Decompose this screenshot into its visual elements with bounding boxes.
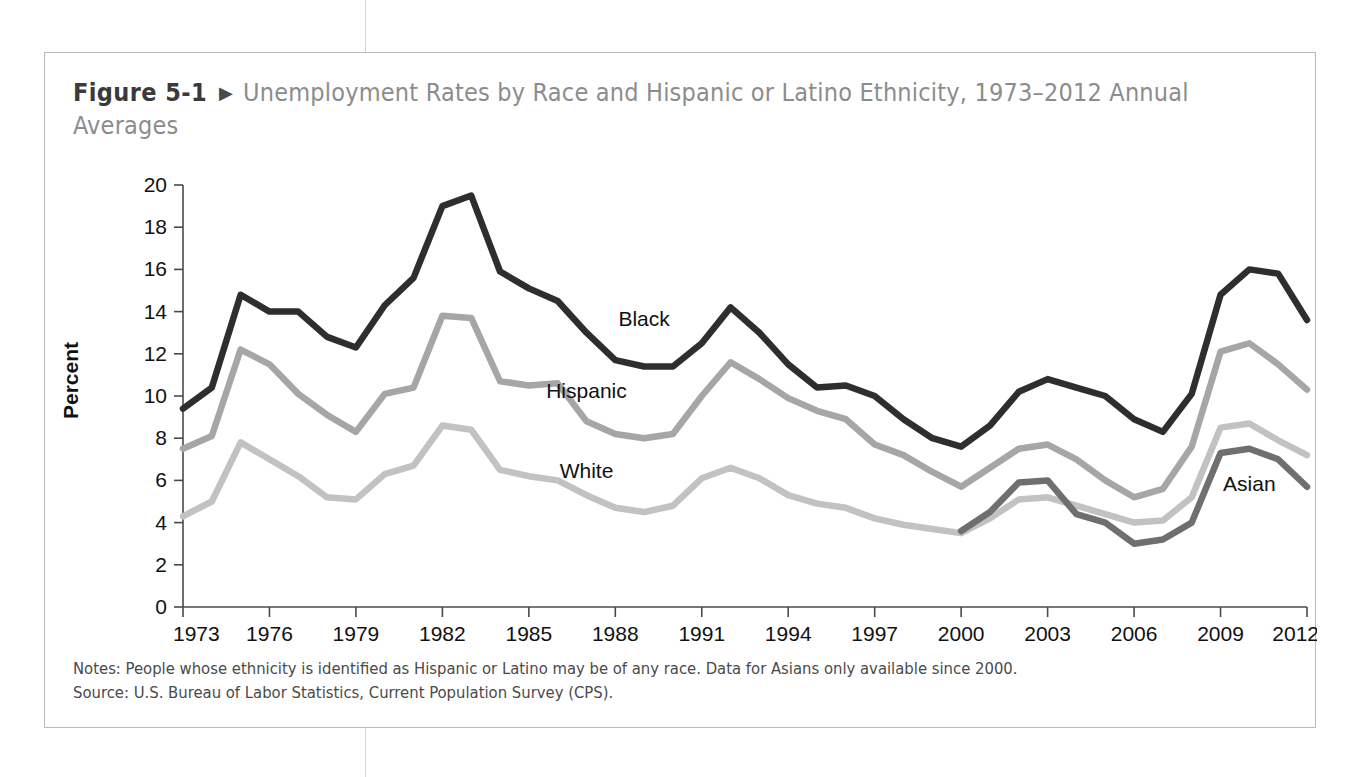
x-axis-tick-label: 1997 <box>851 622 898 645</box>
x-axis-tick-label: 1976 <box>246 622 293 645</box>
figure-number: Figure 5-1 <box>73 78 207 107</box>
x-axis-tick-label: 1982 <box>419 622 466 645</box>
y-axis-tick-label: 4 <box>155 511 167 534</box>
figure-source: Source: U.S. Bureau of Labor Statistics,… <box>73 681 1295 705</box>
figure-notes: Notes: People whose ethnicity is identif… <box>73 657 1295 681</box>
y-axis-tick-label: 18 <box>144 215 167 238</box>
x-axis-tick-label: 2000 <box>938 622 985 645</box>
series-line-white <box>183 423 1307 533</box>
y-axis-tick-label: 10 <box>144 384 167 407</box>
line-chart: 0246810121416182019731976197919821985198… <box>45 171 1317 681</box>
chart-plot-area: Percent 02468101214161820197319761979198… <box>45 171 1317 681</box>
figure-title: Unemployment Rates by Race and Hispanic … <box>73 78 1189 140</box>
y-axis-tick-label: 12 <box>144 342 167 365</box>
series-line-black <box>183 196 1307 447</box>
figure-footnotes: Notes: People whose ethnicity is identif… <box>73 657 1295 706</box>
series-label-white: White <box>560 459 614 482</box>
triangle-right-icon: ▶ <box>219 82 233 104</box>
series-label-black: Black <box>618 307 670 330</box>
y-axis-tick-label: 14 <box>144 300 168 323</box>
y-axis-tick-label: 8 <box>155 426 167 449</box>
figure-title-row: Figure 5-1▶Unemployment Rates by Race an… <box>73 77 1281 142</box>
x-axis-tick-label: 1988 <box>592 622 639 645</box>
y-axis-tick-label: 6 <box>155 468 167 491</box>
y-axis-tick-label: 0 <box>155 595 167 618</box>
y-axis-tick-label: 16 <box>144 257 167 280</box>
x-axis-tick-label: 2012 <box>1272 622 1317 645</box>
y-axis-title: Percent <box>59 342 83 419</box>
x-axis-tick-label: 2003 <box>1024 622 1071 645</box>
x-axis-tick-label: 1994 <box>765 622 812 645</box>
x-axis-tick-label: 1991 <box>678 622 725 645</box>
x-axis-tick-label: 1973 <box>173 622 220 645</box>
series-label-asian: Asian <box>1223 472 1276 495</box>
x-axis-tick-label: 1985 <box>505 622 552 645</box>
x-axis-tick-label: 2006 <box>1111 622 1158 645</box>
page-margin-rule-bottom <box>365 728 366 777</box>
x-axis-tick-label: 1979 <box>333 622 380 645</box>
page-margin-rule-top <box>365 0 366 52</box>
x-axis-tick-label: 2009 <box>1197 622 1244 645</box>
figure-container: Figure 5-1▶Unemployment Rates by Race an… <box>44 52 1316 728</box>
y-axis-tick-label: 20 <box>144 173 167 196</box>
y-axis-tick-label: 2 <box>155 553 167 576</box>
series-label-hispanic: Hispanic <box>546 379 627 402</box>
